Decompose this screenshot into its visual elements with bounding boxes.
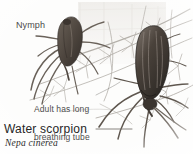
adult-annotation-line-1: Adult has long [34,105,90,114]
caption-scientific-name: Nepa cinerea [5,138,58,148]
water-scorpion-figure: Nymph Adult has long breathing tube Wate… [0,0,193,154]
caption-common-name: Water scorpion [4,123,87,136]
nymph-annotation-label: Nymph [16,21,45,31]
